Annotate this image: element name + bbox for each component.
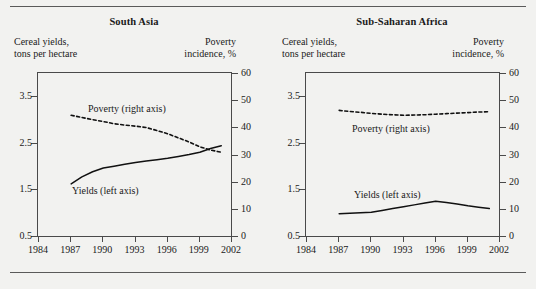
y-tick-label-left-sub-saharan-africa: 3.5 <box>274 91 300 101</box>
series-line-yields-south-asia <box>71 146 221 184</box>
x-tick-label-sub-saharan-africa: 2002 <box>482 245 516 255</box>
y-tick-label-right-south-asia: 40 <box>241 122 267 132</box>
series-annotation-poverty-south-asia: Poverty (right axis) <box>88 104 166 114</box>
x-tick-label-south-asia: 1996 <box>150 245 184 255</box>
y-tick-label-right-sub-saharan-africa: 50 <box>509 95 535 105</box>
y-tick-label-left-south-asia: 2.5 <box>6 138 32 148</box>
y-tick-label-right-south-asia: 60 <box>241 68 267 78</box>
x-tick-label-south-asia: 1999 <box>182 245 216 255</box>
x-tick-south-asia <box>231 237 232 242</box>
y-tick-right-south-asia <box>232 100 238 101</box>
series-line-yields-sub-saharan-africa <box>339 201 489 214</box>
chart-title-sub-saharan-africa: Sub-Saharan Africa <box>268 16 536 27</box>
x-tick-south-asia <box>102 237 103 242</box>
y-tick-right-sub-saharan-africa <box>500 236 506 237</box>
x-tick-label-south-asia: 1984 <box>21 245 55 255</box>
x-tick-label-sub-saharan-africa: 1993 <box>386 245 420 255</box>
y-tick-label-right-sub-saharan-africa: 20 <box>509 177 535 187</box>
y-tick-right-south-asia <box>232 155 238 156</box>
x-tick-label-south-asia: 1987 <box>53 245 87 255</box>
y-tick-label-right-south-asia: 20 <box>241 177 267 187</box>
x-tick-label-sub-saharan-africa: 1987 <box>321 245 355 255</box>
x-tick-south-asia <box>135 237 136 242</box>
y-tick-label-left-south-asia: 3.5 <box>6 91 32 101</box>
y-tick-label-right-sub-saharan-africa: 30 <box>509 150 535 160</box>
x-tick-sub-saharan-africa <box>338 237 339 242</box>
bottom-horizontal-rule <box>10 272 526 273</box>
series-annotation-poverty-sub-saharan-africa: Poverty (right axis) <box>352 124 430 134</box>
y-tick-label-right-sub-saharan-africa: 60 <box>509 68 535 78</box>
y-tick-right-sub-saharan-africa <box>500 155 506 156</box>
y-tick-label-right-sub-saharan-africa: 40 <box>509 122 535 132</box>
y-tick-label-right-sub-saharan-africa: 0 <box>509 231 535 241</box>
plot-area-sub-saharan-africa <box>305 72 500 237</box>
x-tick-sub-saharan-africa <box>306 237 307 242</box>
y-tick-label-right-south-asia: 10 <box>241 204 267 214</box>
x-tick-south-asia <box>70 237 71 242</box>
series-annotation-yields-sub-saharan-africa: Yields (left axis) <box>354 190 421 200</box>
y-tick-label-left-sub-saharan-africa: 1.5 <box>274 184 300 194</box>
y-tick-right-sub-saharan-africa <box>500 182 506 183</box>
y-tick-right-south-asia <box>232 127 238 128</box>
y-tick-label-right-sub-saharan-africa: 10 <box>509 204 535 214</box>
plot-area-south-asia <box>37 72 232 237</box>
chart-panel-sub-saharan-africa: Sub-Saharan Africa Cereal yields, tons p… <box>268 0 536 272</box>
x-tick-south-asia <box>199 237 200 242</box>
x-tick-sub-saharan-africa <box>499 237 500 242</box>
right-axis-title-south-asia: Poverty incidence, % <box>184 36 236 59</box>
x-tick-label-south-asia: 2002 <box>214 245 248 255</box>
y-tick-label-left-south-asia: 1.5 <box>6 184 32 194</box>
series-canvas-sub-saharan-africa <box>306 73 499 236</box>
chart-panel-south-asia: South Asia Cereal yields, tons per hecta… <box>0 0 268 272</box>
y-tick-right-south-asia <box>232 73 238 74</box>
y-tick-right-south-asia <box>232 209 238 210</box>
y-tick-right-sub-saharan-africa <box>500 127 506 128</box>
y-tick-right-south-asia <box>232 236 238 237</box>
y-tick-label-left-sub-saharan-africa: 0.5 <box>274 231 300 241</box>
series-canvas-south-asia <box>38 73 231 236</box>
left-axis-title-sub-saharan-africa: Cereal yields, tons per hectare <box>282 36 345 59</box>
x-tick-sub-saharan-africa <box>370 237 371 242</box>
y-tick-right-sub-saharan-africa <box>500 209 506 210</box>
x-tick-label-sub-saharan-africa: 1984 <box>289 245 323 255</box>
y-tick-label-right-south-asia: 0 <box>241 231 267 241</box>
x-tick-label-sub-saharan-africa: 1990 <box>353 245 387 255</box>
x-tick-label-sub-saharan-africa: 1996 <box>418 245 452 255</box>
x-tick-sub-saharan-africa <box>467 237 468 242</box>
y-tick-right-south-asia <box>232 182 238 183</box>
y-tick-label-right-south-asia: 50 <box>241 95 267 105</box>
x-tick-sub-saharan-africa <box>435 237 436 242</box>
y-tick-right-sub-saharan-africa <box>500 73 506 74</box>
x-tick-label-sub-saharan-africa: 1999 <box>450 245 484 255</box>
series-annotation-yields-south-asia: Yields (left axis) <box>72 186 139 196</box>
y-tick-label-left-south-asia: 0.5 <box>6 231 32 241</box>
y-tick-label-right-south-asia: 30 <box>241 150 267 160</box>
series-line-poverty-south-asia <box>71 115 221 152</box>
y-tick-label-left-sub-saharan-africa: 2.5 <box>274 138 300 148</box>
x-tick-label-south-asia: 1990 <box>85 245 119 255</box>
left-axis-title-south-asia: Cereal yields, tons per hectare <box>14 36 77 59</box>
x-tick-sub-saharan-africa <box>403 237 404 242</box>
y-tick-right-sub-saharan-africa <box>500 100 506 101</box>
right-axis-title-sub-saharan-africa: Poverty incidence, % <box>452 36 504 59</box>
x-tick-south-asia <box>167 237 168 242</box>
chart-title-south-asia: South Asia <box>0 16 268 27</box>
series-line-poverty-sub-saharan-africa <box>339 110 489 115</box>
x-tick-label-south-asia: 1993 <box>118 245 152 255</box>
x-tick-south-asia <box>38 237 39 242</box>
